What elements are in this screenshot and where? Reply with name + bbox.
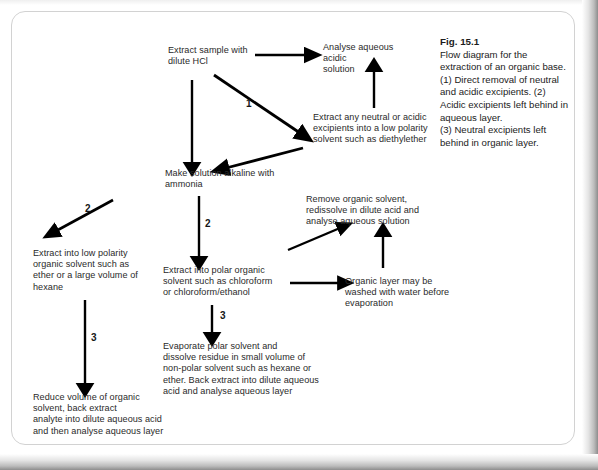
label-route-3-left: 3 [91,333,97,343]
node-evaporate-polar-solvent: Evaporate polar solvent and dissolve res… [163,341,329,397]
node-extract-low-polarity: Extract into low polarity organic solven… [33,248,159,293]
label-route-2-middle: 2 [205,219,211,229]
label-route-1: 1 [246,99,252,109]
node-analyse-aqueous-acidic: Analyse aqueous acidic solution [323,42,423,76]
node-organic-layer-washed: Organic layer may be washed with water b… [345,276,467,310]
page-shadow-bottom [0,454,598,470]
node-extract-sample: Extract sample with dilute HCl [168,45,264,67]
figure-page: Extract sample with dilute HCl Analyse a… [0,0,598,470]
node-reduce-volume: Reduce volume of organic solvent, back e… [33,392,173,437]
page-shadow-top [0,0,598,5]
figure-caption-title: Fig. 15.1 [440,36,568,49]
figure-caption-body: Flow diagram for the extraction of an or… [440,49,568,148]
node-extract-polar-organic: Extract into polar organic solvent such … [163,265,295,299]
page-shadow-right [582,0,598,470]
node-make-alkaline: Make solution alkaline with ammonia [165,168,315,190]
label-route-3-middle: 3 [220,311,226,321]
node-remove-organic-solvent: Remove organic solvent, redissolve in di… [306,194,456,228]
label-route-2-left: 2 [85,204,91,214]
figure-caption: Fig. 15.1Flow diagram for the extraction… [440,36,568,149]
